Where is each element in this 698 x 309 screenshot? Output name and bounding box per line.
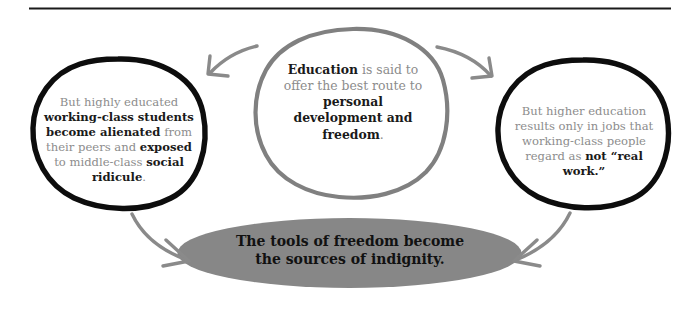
diagram-artwork (0, 0, 698, 309)
arrow-left-to-bottom (132, 214, 189, 266)
node-right-circle (498, 60, 668, 208)
node-left-circle (33, 59, 205, 209)
arrow-center-to-left (208, 46, 257, 76)
diagram-canvas: Education is said to offer the best rout… (0, 0, 698, 309)
node-center-circle (256, 29, 448, 198)
node-bottom-ellipse (178, 218, 522, 288)
arrow-right-to-bottom (514, 213, 570, 266)
arrow-center-to-right (437, 47, 492, 78)
